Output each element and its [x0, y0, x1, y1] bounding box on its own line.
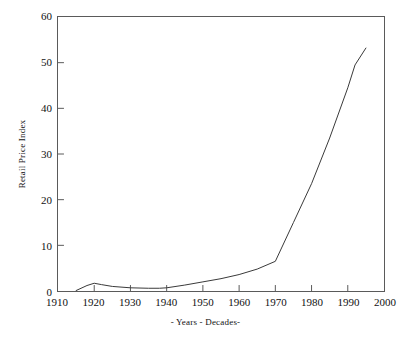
chart-container: Retail Price Index 0102030405060 1910192… — [0, 0, 411, 342]
y-axis-tick-labels: 0102030405060 — [12, 0, 52, 342]
data-series-line — [58, 17, 384, 291]
y-axis-tick-label: 10 — [12, 241, 52, 252]
y-axis-tick-label: 50 — [12, 57, 52, 68]
x-axis-tick-label: 1990 — [338, 296, 360, 309]
x-axis-tick-label: 1960 — [228, 296, 250, 309]
plot-area — [57, 16, 385, 292]
y-axis-tick-label: 20 — [12, 195, 52, 206]
y-axis-tick-label: 40 — [12, 103, 52, 114]
x-axis-tick-label: 1930 — [119, 296, 141, 309]
x-axis-tick-label: 1920 — [82, 296, 104, 309]
series-line-retail-price-index — [76, 48, 366, 290]
x-axis-tick-label: 1910 — [46, 296, 68, 309]
x-axis-tick-label: 1980 — [301, 296, 323, 309]
x-axis-tick-label: 1940 — [155, 296, 177, 309]
x-axis-tick-labels: 1910192019301940195019601970198019902000 — [0, 296, 411, 312]
y-axis-tick-label: 60 — [12, 11, 52, 22]
x-axis-tick-label: 1970 — [265, 296, 287, 309]
x-axis-tick-label: 1950 — [192, 296, 214, 309]
y-axis-tick-label: 30 — [12, 149, 52, 160]
x-axis-tick-label: 2000 — [374, 296, 396, 309]
x-axis-title: - Years - Decades- — [0, 317, 411, 327]
